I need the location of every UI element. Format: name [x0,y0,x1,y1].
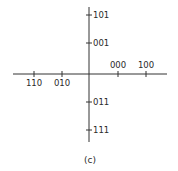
v-tick-label: 011 [93,97,109,107]
figure-caption: (c) [84,155,96,165]
h-tick-label: 010 [54,78,70,88]
v-tick-label: 101 [93,10,109,20]
h-tick-label: 100 [138,60,154,70]
v-tick-label: 001 [93,38,109,48]
h-tick-label: 110 [26,78,42,88]
v-tick-label: 111 [93,125,109,135]
code-axes-diagram: 110 010 000 100 101 001 011 111 (c) [0,0,178,171]
h-tick-label: 000 [110,60,126,70]
